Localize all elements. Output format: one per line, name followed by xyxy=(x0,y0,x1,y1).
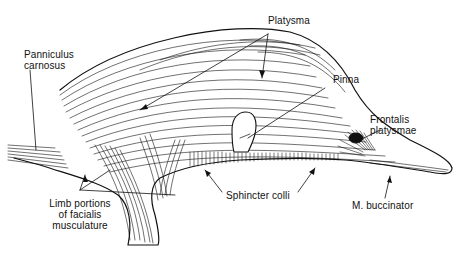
label-platysma: Platysma xyxy=(268,15,310,26)
buccinator-band xyxy=(370,160,448,172)
label-frontalis: Frontalis platysmae xyxy=(370,114,416,136)
label-limb-line1: Limb portions xyxy=(40,198,120,209)
label-limb-portions: Limb portions of facialis musculature xyxy=(40,198,120,231)
label-panniculus-line1: Panniculus xyxy=(24,49,74,60)
label-panniculus: Panniculus carnosus xyxy=(24,49,74,71)
label-limb-line3: musculature xyxy=(40,220,120,231)
label-panniculus-line2: carnosus xyxy=(24,60,74,71)
label-limb-line2: of facialis xyxy=(40,209,120,220)
label-frontalis-line2: platysmae xyxy=(370,125,416,136)
label-buccinator: M. buccinator xyxy=(352,200,413,211)
pinna-shape xyxy=(232,112,256,152)
eye-mass xyxy=(349,133,363,143)
label-frontalis-line1: Frontalis xyxy=(370,114,416,125)
anatomy-figure: Panniculus carnosus Platysma Pinna Front… xyxy=(0,0,458,258)
label-pinna: Pinna xyxy=(333,74,359,85)
label-sphincter-colli: Sphincter colli xyxy=(226,190,290,201)
